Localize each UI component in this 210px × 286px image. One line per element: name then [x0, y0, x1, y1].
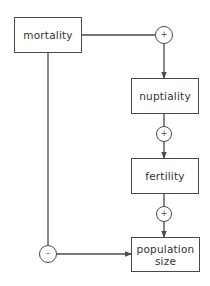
minus-icon: – [46, 250, 50, 258]
plus-icon: + [161, 31, 168, 39]
node-fertility: fertility [131, 158, 199, 194]
node-population-label-line2: size [155, 255, 176, 267]
minus-sign-mortality-population: – [39, 245, 57, 263]
node-nuptiality: nuptiality [131, 78, 199, 114]
node-mortality: mortality [14, 17, 82, 53]
node-population-size: population size [131, 237, 200, 272]
plus-icon: + [161, 210, 168, 218]
node-population-label-line1: population [137, 243, 195, 255]
plus-sign-nuptiality-fertility: + [156, 126, 172, 142]
plus-icon: + [161, 130, 168, 138]
plus-sign-mortality-nuptiality: + [155, 26, 173, 44]
node-fertility-label: fertility [145, 170, 184, 182]
plus-sign-fertility-population: + [156, 206, 172, 222]
node-mortality-label: mortality [23, 29, 73, 41]
node-nuptiality-label: nuptiality [139, 90, 191, 102]
